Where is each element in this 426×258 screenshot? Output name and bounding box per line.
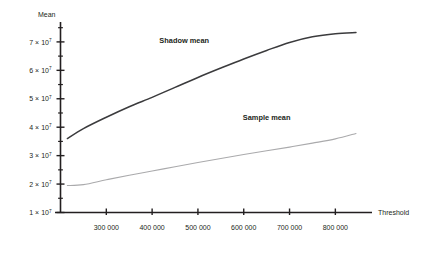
y-tick-label: 2 × 107 bbox=[29, 180, 52, 188]
chart-container: 1 × 1072 × 1073 × 1074 × 1075 × 1076 × 1… bbox=[0, 0, 426, 258]
y-tick-label: 6 × 107 bbox=[29, 66, 52, 74]
y-axis-title: Mean bbox=[38, 11, 56, 18]
y-tick-label: 4 × 107 bbox=[29, 123, 52, 131]
x-axis-title: Threshold bbox=[378, 209, 409, 216]
y-tick-label: 1 × 107 bbox=[29, 209, 52, 217]
x-tick-label: 600 000 bbox=[231, 224, 256, 231]
x-tick-label: 300 000 bbox=[94, 224, 119, 231]
y-tick-label: 5 × 107 bbox=[29, 95, 52, 103]
series-annotation: Shadow mean bbox=[159, 36, 209, 45]
x-tick-label: 500 000 bbox=[185, 224, 210, 231]
series-annotation: Sample mean bbox=[243, 113, 291, 122]
x-tick-label: 800 000 bbox=[323, 224, 348, 231]
mean-vs-threshold-line-chart: 1 × 1072 × 1073 × 1074 × 1075 × 1076 × 1… bbox=[0, 0, 426, 258]
x-tick-label: 700 000 bbox=[277, 224, 302, 231]
chart-background bbox=[0, 0, 426, 258]
y-tick-label: 3 × 107 bbox=[29, 152, 52, 160]
y-tick-label: 7 × 107 bbox=[29, 38, 52, 46]
x-tick-label: 400 000 bbox=[139, 224, 164, 231]
